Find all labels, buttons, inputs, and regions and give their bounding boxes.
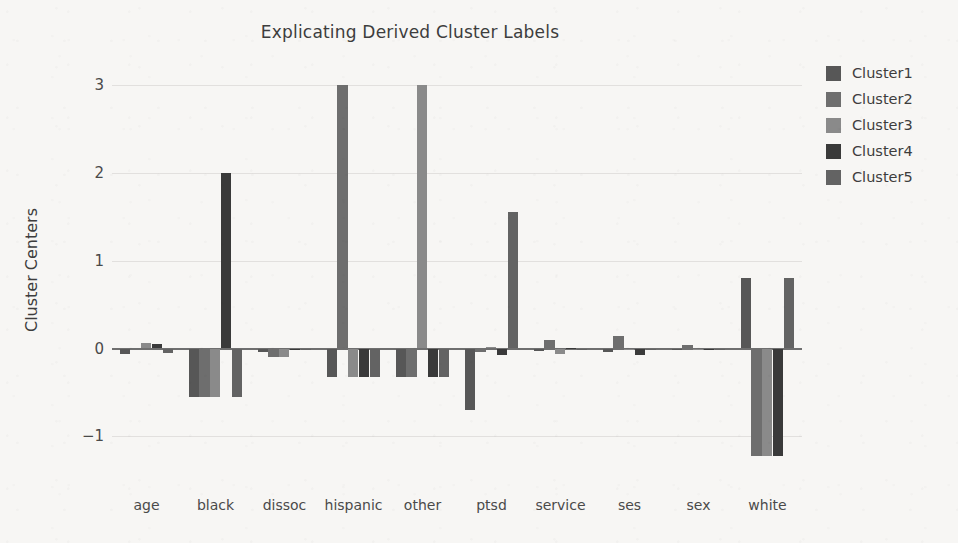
legend-item[interactable]: Cluster1 <box>826 60 950 86</box>
gridline <box>112 85 802 86</box>
bar <box>465 349 475 410</box>
bar <box>544 340 554 349</box>
x-axis-tick-labels: ageblackdissochispanicotherptsdservicese… <box>112 497 802 519</box>
y-axis-tick-labels: 3210−1 <box>56 72 104 467</box>
bar <box>406 349 416 378</box>
bar <box>301 349 311 350</box>
x-tick-label: dissoc <box>263 497 307 513</box>
bar <box>646 349 656 350</box>
x-tick-label: ses <box>618 497 641 513</box>
bar <box>348 349 358 378</box>
legend-item[interactable]: Cluster2 <box>826 86 950 112</box>
bar <box>475 349 485 353</box>
bar <box>613 336 623 348</box>
bar <box>258 349 268 353</box>
gridline <box>112 261 802 262</box>
y-tick-label: 1 <box>64 252 104 270</box>
legend-swatch-icon <box>826 118 841 133</box>
chart-title: Explicating Derived Cluster Labels <box>0 22 820 42</box>
chart-legend: Cluster1Cluster2Cluster3Cluster4Cluster5 <box>826 60 950 190</box>
legend-item[interactable]: Cluster3 <box>826 112 950 138</box>
x-tick-label: age <box>133 497 159 513</box>
y-tick-label: 3 <box>64 76 104 94</box>
bar <box>120 349 130 354</box>
bar <box>130 348 140 349</box>
bar <box>163 349 173 353</box>
bar <box>396 349 406 378</box>
bar <box>566 348 576 349</box>
gridline <box>112 173 802 174</box>
gridline <box>112 436 802 437</box>
bar <box>359 349 369 378</box>
y-tick-label: −1 <box>64 427 104 445</box>
legend-item[interactable]: Cluster5 <box>826 164 950 190</box>
bar <box>693 349 703 350</box>
bar <box>337 85 347 348</box>
bar <box>577 349 587 350</box>
legend-swatch-icon <box>826 92 841 107</box>
plot-area <box>112 72 802 467</box>
bar <box>486 347 496 349</box>
x-tick-label: sex <box>687 497 711 513</box>
bar <box>417 85 427 348</box>
bar <box>428 349 438 378</box>
bar <box>715 349 725 350</box>
y-tick-label: 0 <box>64 340 104 358</box>
legend-swatch-icon <box>826 66 841 81</box>
y-tick-label: 2 <box>64 164 104 182</box>
bar <box>232 349 242 397</box>
bar <box>290 349 300 351</box>
legend-item-label: Cluster1 <box>852 65 913 81</box>
legend-item-label: Cluster4 <box>852 143 913 159</box>
x-tick-label: black <box>197 497 234 513</box>
bar <box>762 349 772 456</box>
bar <box>141 343 151 348</box>
legend-swatch-icon <box>826 170 841 185</box>
bar <box>327 349 337 378</box>
bar <box>439 349 449 378</box>
bar <box>672 349 682 351</box>
bar <box>508 212 518 348</box>
bar <box>210 349 220 397</box>
bar <box>189 349 199 397</box>
bar <box>704 349 714 350</box>
bar <box>603 349 613 353</box>
bar <box>279 349 289 358</box>
x-tick-label: white <box>748 497 786 513</box>
bar <box>497 349 507 355</box>
legend-item[interactable]: Cluster4 <box>826 138 950 164</box>
bar <box>773 349 783 456</box>
bar <box>534 349 544 352</box>
bar <box>221 173 231 349</box>
legend-item-label: Cluster2 <box>852 91 913 107</box>
x-tick-label: ptsd <box>476 497 507 513</box>
x-tick-label: hispanic <box>325 497 383 513</box>
bar <box>741 278 751 348</box>
bar <box>635 349 645 355</box>
bar <box>268 349 278 358</box>
x-tick-label: other <box>404 497 441 513</box>
bar <box>682 345 692 349</box>
legend-item-label: Cluster3 <box>852 117 913 133</box>
bar <box>784 278 794 348</box>
y-axis-title: Cluster Centers <box>22 170 41 370</box>
x-tick-label: service <box>535 497 585 513</box>
chart-figure: Explicating Derived Cluster Labels Clust… <box>0 0 958 543</box>
legend-swatch-icon <box>826 144 841 159</box>
bar <box>624 349 634 351</box>
legend-item-label: Cluster5 <box>852 169 913 185</box>
bar <box>555 349 565 354</box>
bar <box>152 344 162 348</box>
bar <box>751 349 761 456</box>
bar <box>370 349 380 378</box>
bar <box>199 349 209 397</box>
